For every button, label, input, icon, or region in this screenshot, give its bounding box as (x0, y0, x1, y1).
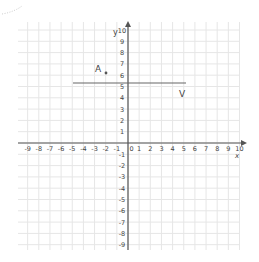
y-tick-label: -2 (119, 162, 125, 170)
x-tick-label: 0 (129, 145, 133, 153)
x-tick-label: -8 (36, 145, 42, 153)
y-tick-label: -9 (119, 241, 125, 249)
decorative-dotted-arc (2, 6, 22, 14)
y-tick-label: 8 (120, 49, 124, 57)
y-tick-label: 2 (120, 117, 124, 125)
y-tick-label: -6 (119, 207, 125, 215)
x-tick-label: 4 (171, 145, 175, 153)
x-tick-label: -3 (91, 145, 97, 153)
y-tick-label: 6 (120, 72, 124, 80)
x-tick-label: -9 (24, 145, 30, 153)
x-tick-label: -6 (58, 145, 64, 153)
point-a-marker (105, 72, 108, 75)
coordinate-plane: -9-8-7-6-5-4-3-2-1012345678910 109876543… (0, 0, 259, 262)
x-tick-label: 9 (226, 145, 230, 153)
point-label-a: A (95, 64, 102, 74)
y-tick-labels: 10987654321-1-2-3-4-5-6-7-8-9 (118, 27, 126, 250)
y-tick-label: -3 (119, 173, 125, 181)
y-tick-label: 4 (120, 94, 124, 102)
y-tick-label: -7 (119, 219, 125, 227)
x-tick-label: -7 (47, 145, 53, 153)
y-tick-label: 9 (120, 38, 124, 46)
coordinate-grid-figure: -9-8-7-6-5-4-3-2-1012345678910 109876543… (0, 0, 259, 262)
x-tick-label: 6 (193, 145, 197, 153)
x-tick-label: 8 (215, 145, 219, 153)
y-tick-label: -4 (119, 185, 125, 193)
x-tick-label: 7 (204, 145, 208, 153)
y-tick-label: 7 (120, 60, 124, 68)
line-label-v: V (179, 89, 186, 99)
x-tick-labels: -9-8-7-6-5-4-3-2-1012345678910 (24, 145, 243, 153)
y-tick-label: 5 (120, 83, 124, 91)
y-tick-label: 1 (120, 128, 124, 136)
y-tick-label: 10 (118, 27, 126, 35)
x-tick-label: 2 (148, 145, 152, 153)
x-tick-label: 5 (182, 145, 186, 153)
x-tick-label: -2 (102, 145, 108, 153)
axes (18, 21, 247, 250)
y-tick-label: -8 (119, 230, 125, 238)
y-tick-label: 3 (120, 106, 124, 114)
x-tick-label: -4 (80, 145, 86, 153)
y-axis-label: y (113, 28, 118, 37)
x-tick-label: 3 (159, 145, 163, 153)
grid-lines (18, 22, 240, 250)
x-tick-label: -5 (69, 145, 75, 153)
x-axis-label: x (234, 152, 240, 160)
x-tick-label: 1 (137, 145, 141, 153)
y-tick-label: -1 (119, 151, 125, 159)
y-tick-label: -5 (119, 196, 125, 204)
